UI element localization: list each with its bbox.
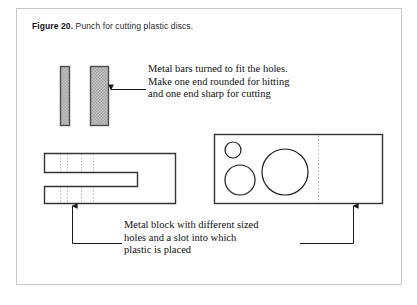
small-hole — [225, 142, 241, 158]
figure-page: Figure 20. Punch for cutting plastic dis… — [0, 0, 417, 305]
slotted-metal-block — [45, 154, 176, 204]
annotation-block-line-3: plastic is placed — [124, 244, 259, 257]
medium-hole — [225, 165, 255, 195]
annotation-bars-line-1: Metal bars turned to fit the holes. — [148, 63, 289, 76]
annotation-bars-line-3: and one end sharp for cutting — [148, 88, 289, 101]
annotation-block-line-1: Metal block with different sized — [124, 219, 259, 232]
technical-drawing — [0, 0, 417, 305]
annotation-metal-bars: Metal bars turned to fit the holes. Make… — [148, 63, 289, 101]
large-hole — [262, 149, 308, 195]
annotation-block-line-2: holes and a slot into which — [124, 232, 259, 245]
narrow-metal-bar — [61, 67, 70, 126]
wide-metal-bar — [91, 67, 109, 126]
annotation-metal-block: Metal block with different sized holes a… — [124, 219, 259, 257]
annotation-bars-line-2: Make one end rounded for hitting — [148, 76, 289, 89]
